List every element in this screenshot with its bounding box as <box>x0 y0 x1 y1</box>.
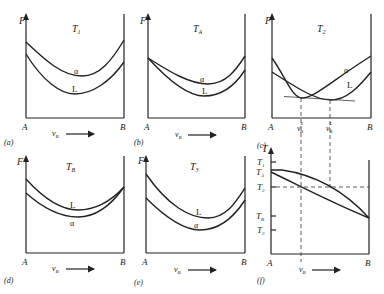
panel-label: (e) <box>134 278 143 287</box>
solidus-composition-label: νSB <box>297 121 304 134</box>
curve-liquid <box>272 72 371 100</box>
curve-label-alpha: α <box>194 221 199 230</box>
panel-e: F T3 L α A B νB (e) <box>134 155 247 287</box>
x-variable-label: νB <box>52 264 59 274</box>
y-axis-label: T <box>262 143 269 154</box>
x-end-label: B <box>367 122 373 132</box>
solidus-curve <box>271 172 369 218</box>
y-axis-label: F <box>16 156 24 167</box>
panel-label: (f) <box>257 276 265 285</box>
temperature-label: T3 <box>190 161 199 173</box>
x-end-label: B <box>120 122 126 132</box>
y-axis-label: F <box>18 15 26 26</box>
y-axis-label: F <box>264 15 272 26</box>
curve-label-alpha: α <box>74 67 79 76</box>
tick-label-T2: T2 <box>257 182 265 193</box>
panel-f: T T1 TA T2 TB T3 A B νB (f) <box>256 143 371 285</box>
y-axis-label: F <box>137 155 145 166</box>
x-end-label: B <box>241 257 247 267</box>
tick-label-T3: T3 <box>257 225 265 236</box>
liquidus-curve <box>271 170 369 218</box>
panel-label: (b) <box>134 138 144 147</box>
x-variable-label: νB <box>52 129 59 139</box>
x-variable-label: νB <box>299 265 306 275</box>
temperature-label: TB <box>66 161 76 173</box>
curve-label-liquid: L <box>202 86 208 96</box>
x-end-label: B <box>120 257 126 267</box>
curve-label-liquid: L <box>347 80 353 90</box>
y-axis-label: F <box>139 15 147 26</box>
curve-liquid <box>148 58 245 96</box>
x-start-label: A <box>21 257 28 267</box>
x-end-label: B <box>365 258 371 268</box>
x-start-label: A <box>21 122 28 132</box>
panel-label: (d) <box>4 276 14 285</box>
panel-label: (a) <box>4 138 14 147</box>
curve-label-liquid: L <box>70 200 76 210</box>
curve-label-liquid: L <box>72 84 78 94</box>
temperature-label: T1 <box>72 23 81 35</box>
curve-label-alpha: α <box>200 75 205 84</box>
x-variable-label: νB <box>174 265 181 275</box>
x-variable-label: νB <box>175 130 182 140</box>
x-start-label: A <box>141 257 148 267</box>
curve-label-alpha: α <box>70 219 75 228</box>
tick-label-TA: TA <box>256 167 265 178</box>
temperature-label: T2 <box>317 23 326 35</box>
panel-a: F T1 α L A B νB (a) <box>4 13 126 147</box>
panel-b: F TA α L A B νB (b) <box>134 13 247 147</box>
curve-label-liquid: L <box>196 207 202 217</box>
panel-c: F T2 α L A B νSB νLB (c) <box>257 13 373 262</box>
panel-d: F TB L α A B νB (d) <box>4 155 126 285</box>
tick-label-TB: TB <box>256 211 264 222</box>
y-axis-arrow-icon <box>268 147 274 154</box>
temperature-label: TA <box>193 23 203 35</box>
x-start-label: A <box>143 122 150 132</box>
x-end-label: B <box>241 122 247 132</box>
liquidus-composition-label: νLB <box>326 121 333 134</box>
y-axis-arrow-icon <box>23 155 29 162</box>
phase-diagram-figure: F T1 α L A B νB (a) F TA α L A B νB (b) <box>0 0 384 294</box>
curve-alpha <box>148 56 245 84</box>
curve-alpha <box>272 56 371 98</box>
x-start-label: A <box>267 122 274 132</box>
x-start-label: A <box>266 258 273 268</box>
